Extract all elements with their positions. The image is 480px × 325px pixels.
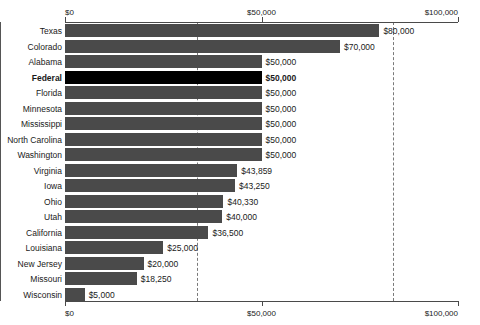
bar — [65, 24, 379, 37]
bar — [65, 71, 262, 84]
bar-value-label: $50,000 — [266, 118, 297, 130]
bar — [65, 272, 137, 285]
bar-value-label: $43,250 — [239, 180, 270, 192]
bar — [65, 195, 223, 208]
bar-row: Virginia$43,859 — [0, 163, 480, 179]
category-label: Wisconsin — [0, 289, 62, 301]
bar-row: Utah$40,000 — [0, 209, 480, 225]
bar-row: Wisconsin$5,000 — [0, 287, 480, 303]
bar — [65, 241, 163, 254]
category-label: Iowa — [0, 180, 62, 192]
category-label: Missouri — [0, 273, 62, 285]
bar-value-label: $50,000 — [266, 56, 297, 68]
bar — [65, 148, 262, 161]
bar-chart: $0$0$50,000$50,000$100,000$100,000 Texas… — [0, 0, 480, 325]
bar-row: Minnesota$50,000 — [0, 101, 480, 117]
category-label: North Carolina — [0, 134, 62, 146]
bar-row: Federal$50,000 — [0, 70, 480, 86]
bar — [65, 226, 208, 239]
category-label: Louisiana — [0, 242, 62, 254]
bar — [65, 117, 262, 130]
x-tick-label-0-bottom: $0 — [65, 309, 74, 319]
bar-row: Washington$50,000 — [0, 147, 480, 163]
bar-row: Missouri$18,250 — [0, 271, 480, 287]
category-label: Alabama — [0, 56, 62, 68]
bar-row: Alabama$50,000 — [0, 54, 480, 70]
bar-value-label: $80,000 — [383, 25, 414, 37]
bar-row: Colorado$70,000 — [0, 39, 480, 55]
bar-value-label: $50,000 — [266, 72, 297, 84]
bar — [65, 102, 262, 115]
bar-row: North Carolina$50,000 — [0, 132, 480, 148]
bar-row: Iowa$43,250 — [0, 178, 480, 194]
bar-value-label: $50,000 — [266, 149, 297, 161]
bar — [65, 86, 262, 99]
category-label: Federal — [0, 72, 62, 84]
bar — [65, 40, 340, 53]
bar-value-label: $40,330 — [227, 196, 258, 208]
axis-tick-top — [458, 17, 459, 22]
category-label: New Jersey — [0, 258, 62, 270]
bar — [65, 179, 235, 192]
bar-value-label: $36,500 — [212, 227, 243, 239]
category-label: Colorado — [0, 41, 62, 53]
category-label: Florida — [0, 87, 62, 99]
bar — [65, 133, 262, 146]
x-tick-label-100000-top: $100,000 — [425, 8, 458, 18]
x-tick-label-50000-top: $50,000 — [247, 8, 276, 18]
bar-value-label: $70,000 — [344, 41, 375, 53]
bar-value-label: $20,000 — [148, 258, 179, 270]
x-tick-label-100000-bottom: $100,000 — [425, 309, 458, 319]
bar-value-label: $18,250 — [141, 273, 172, 285]
category-label: Washington — [0, 149, 62, 161]
bar-value-label: $50,000 — [266, 103, 297, 115]
bar-row: California$36,500 — [0, 225, 480, 241]
bar-value-label: $43,859 — [241, 165, 272, 177]
bar-row: Louisiana$25,000 — [0, 240, 480, 256]
x-tick-label-50000-bottom: $50,000 — [247, 309, 276, 319]
bar — [65, 55, 262, 68]
bar — [65, 288, 85, 301]
category-label: Ohio — [0, 196, 62, 208]
bar-value-label: $50,000 — [266, 87, 297, 99]
x-tick-label-0-top: $0 — [65, 8, 74, 18]
category-label: Utah — [0, 211, 62, 223]
bar-row: Mississippi$50,000 — [0, 116, 480, 132]
category-label: Mississippi — [0, 118, 62, 130]
bar-row: Ohio$40,330 — [0, 194, 480, 210]
bar-row: Texas$80,000 — [0, 23, 480, 39]
bar — [65, 257, 144, 270]
bar — [65, 164, 237, 177]
bar-value-label: $40,000 — [226, 211, 257, 223]
category-label: Minnesota — [0, 103, 62, 115]
bar-value-label: $50,000 — [266, 134, 297, 146]
bar-row: New Jersey$20,000 — [0, 256, 480, 272]
bar-row: Florida$50,000 — [0, 85, 480, 101]
category-label: Virginia — [0, 165, 62, 177]
bar-value-label: $25,000 — [167, 242, 198, 254]
category-label: California — [0, 227, 62, 239]
bar-value-label: $5,000 — [89, 289, 115, 301]
category-label: Texas — [0, 25, 62, 37]
bar — [65, 210, 222, 223]
